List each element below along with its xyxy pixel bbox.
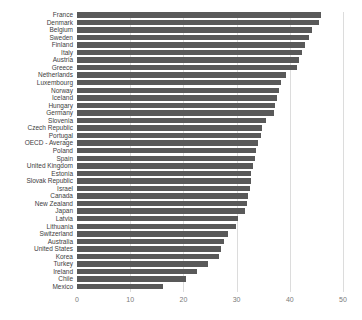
bar-chile xyxy=(77,276,186,282)
bar-slovenia xyxy=(77,118,266,124)
category-label-oecd-average: OECD - Average xyxy=(0,140,73,146)
bar-australia xyxy=(77,239,224,245)
bar-belgium xyxy=(77,27,312,33)
bar-spain xyxy=(77,156,255,162)
bar-mexico xyxy=(77,284,163,290)
bar-oecd-average xyxy=(77,140,258,146)
category-label-luxembourg: Luxembourg xyxy=(0,80,73,86)
bar-greece xyxy=(77,65,297,71)
category-label-iceland: Iceland xyxy=(0,95,73,101)
category-label-belgium: Belgium xyxy=(0,27,73,33)
x-tick-label-30: 30 xyxy=(233,296,241,303)
category-label-lithuania: Lithuania xyxy=(0,224,73,230)
category-label-norway: Norway xyxy=(0,88,73,94)
category-label-france: France xyxy=(0,12,73,18)
bar-slovak-republic xyxy=(77,178,251,184)
bar-finland xyxy=(77,42,305,48)
category-label-greece: Greece xyxy=(0,65,73,71)
category-label-austria: Austria xyxy=(0,57,73,63)
x-tick-label-50: 50 xyxy=(339,296,347,303)
bar-denmark xyxy=(77,20,319,26)
bar-chart: FranceDenmarkBelgiumSwedenFinlandItalyAu… xyxy=(0,0,362,320)
category-label-canada: Canada xyxy=(0,193,73,199)
bar-germany xyxy=(77,110,274,116)
category-label-chile: Chile xyxy=(0,276,73,282)
category-label-germany: Germany xyxy=(0,110,73,116)
category-label-turkey: Turkey xyxy=(0,261,73,267)
bar-norway xyxy=(77,88,279,94)
bar-estonia xyxy=(77,171,251,177)
bar-united-kingdom xyxy=(77,163,253,169)
x-tick-label-10: 10 xyxy=(126,296,134,303)
x-tick-label-0: 0 xyxy=(75,296,79,303)
category-label-korea: Korea xyxy=(0,254,73,260)
category-label-finland: Finland xyxy=(0,42,73,48)
category-label-czech-republic: Czech Republic xyxy=(0,125,73,131)
gridline-50 xyxy=(343,12,344,292)
bar-canada xyxy=(77,193,248,199)
bar-israel xyxy=(77,186,250,192)
category-label-estonia: Estonia xyxy=(0,171,73,177)
bar-iceland xyxy=(77,95,277,101)
bar-portugal xyxy=(77,133,261,139)
category-label-israel: Israel xyxy=(0,186,73,192)
category-label-denmark: Denmark xyxy=(0,20,73,26)
category-label-australia: Australia xyxy=(0,239,73,245)
bar-japan xyxy=(77,208,245,214)
bar-austria xyxy=(77,57,299,63)
bar-switzerland xyxy=(77,231,228,237)
bar-italy xyxy=(77,50,302,56)
category-label-netherlands: Netherlands xyxy=(0,72,73,78)
bar-poland xyxy=(77,148,256,154)
category-label-hungary: Hungary xyxy=(0,103,73,109)
category-label-japan: Japan xyxy=(0,208,73,214)
category-label-slovak-republic: Slovak Republic xyxy=(0,178,73,184)
bar-korea xyxy=(77,254,219,260)
bar-united-states xyxy=(77,246,221,252)
x-tick-label-40: 40 xyxy=(286,296,294,303)
bar-czech-republic xyxy=(77,125,262,131)
x-tick-label-20: 20 xyxy=(179,296,187,303)
bar-netherlands xyxy=(77,72,286,78)
bar-latvia xyxy=(77,216,238,222)
category-label-mexico: Mexico xyxy=(0,284,73,290)
category-label-spain: Spain xyxy=(0,156,73,162)
category-label-poland: Poland xyxy=(0,148,73,154)
category-label-ireland: Ireland xyxy=(0,269,73,275)
category-label-sweden: Sweden xyxy=(0,35,73,41)
category-label-latvia: Latvia xyxy=(0,216,73,222)
category-label-united-kingdom: United Kingdom xyxy=(0,163,73,169)
bar-new-zealand xyxy=(77,201,247,207)
category-label-united-states: United States xyxy=(0,246,73,252)
category-label-portugal: Portugal xyxy=(0,133,73,139)
category-label-new-zealand: New Zealand xyxy=(0,201,73,207)
bar-sweden xyxy=(77,35,309,41)
bar-ireland xyxy=(77,269,197,275)
bar-france xyxy=(77,12,321,18)
bar-luxembourg xyxy=(77,80,281,86)
category-label-italy: Italy xyxy=(0,50,73,56)
category-label-slovenia: Slovenia xyxy=(0,118,73,124)
category-label-switzerland: Switzerland xyxy=(0,231,73,237)
bar-turkey xyxy=(77,261,208,267)
bar-hungary xyxy=(77,103,275,109)
bar-lithuania xyxy=(77,224,236,230)
